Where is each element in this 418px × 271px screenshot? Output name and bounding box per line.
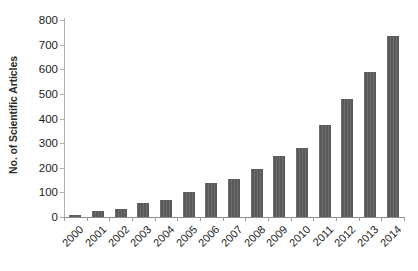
bar <box>341 99 353 217</box>
plot-area <box>64 20 404 217</box>
bar-chart: No. of Scientific Articles 0100200300400… <box>0 0 418 271</box>
bar <box>319 125 331 217</box>
bar <box>251 169 263 217</box>
bars-layer <box>64 20 404 217</box>
bar <box>296 148 308 217</box>
bar <box>228 179 240 217</box>
y-axis-tick-label: 800 <box>39 14 58 26</box>
y-axis-tick-label: 100 <box>39 186 58 198</box>
x-axis-tick-labels: 2000200120022003200420052006200720082009… <box>64 217 404 271</box>
y-axis-tick-label: 0 <box>52 211 58 223</box>
bar <box>137 203 149 217</box>
bar <box>205 183 217 217</box>
y-axis-tick-label: 500 <box>39 88 58 100</box>
y-axis-tick-label: 700 <box>39 39 58 51</box>
y-axis-tick-label: 200 <box>39 162 58 174</box>
y-axis-tick-label: 300 <box>39 137 58 149</box>
y-axis-title: No. of Scientific Articles <box>0 0 26 230</box>
bar <box>115 209 127 217</box>
x-axis-tick-mark <box>404 217 405 221</box>
bar <box>183 192 195 217</box>
bar <box>364 72 376 217</box>
bar <box>160 200 172 217</box>
y-axis-tick-label: 600 <box>39 63 58 75</box>
y-axis-title-text: No. of Scientific Articles <box>7 56 19 174</box>
y-axis-tick-label: 400 <box>39 113 58 125</box>
bar <box>387 36 399 217</box>
y-axis-tick-labels: 0100200300400500600700800 <box>26 0 62 271</box>
bar <box>273 156 285 217</box>
